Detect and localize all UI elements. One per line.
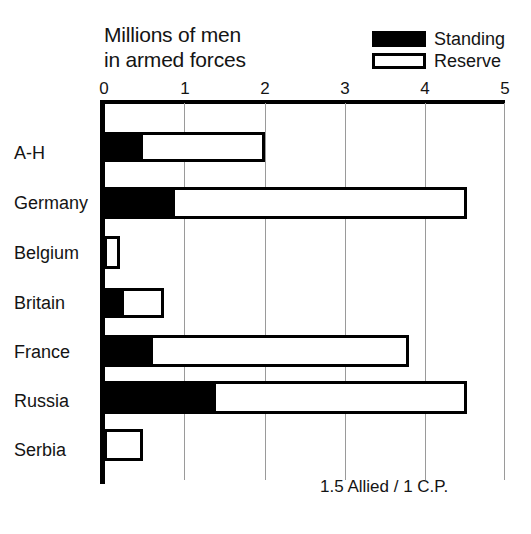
- table-row: [104, 187, 467, 219]
- legend-item-reserve: Reserve: [372, 50, 531, 72]
- chart-footnote: 1.5 Allied / 1 C.P.: [320, 477, 448, 497]
- table-row: [104, 335, 409, 367]
- legend-label-standing: Standing: [434, 29, 505, 49]
- gridline-5: [504, 103, 505, 480]
- bar-standing-belgium: [104, 236, 106, 269]
- table-row: [104, 288, 164, 318]
- bar-total-belgium: [104, 236, 120, 269]
- bar-standing-britain: [104, 288, 124, 318]
- legend-swatch-standing-icon: [372, 31, 426, 47]
- bar-standing-a-h: [104, 132, 143, 162]
- bar-standing-serbia: [104, 429, 106, 461]
- bar-standing-russia: [104, 381, 216, 414]
- legend-swatch-reserve-icon: [372, 53, 426, 69]
- xtick-label-1: 1: [180, 80, 189, 98]
- chart-title: Millions of men in armed forces: [104, 22, 246, 72]
- cat-label-russia: Russia: [0, 391, 92, 411]
- bar-chart: Millions of men in armed forces Standing…: [0, 0, 531, 534]
- legend-label-reserve: Reserve: [434, 51, 501, 71]
- xtick-label-2: 2: [260, 80, 269, 98]
- xtick-label-4: 4: [420, 80, 429, 98]
- table-row: [104, 381, 467, 414]
- cat-label-a-h: A-H: [0, 143, 92, 163]
- table-row: [104, 429, 143, 461]
- gridline-2: [265, 103, 266, 480]
- cat-label-germany: Germany: [0, 193, 92, 213]
- cat-label-france: France: [0, 342, 92, 362]
- cat-label-belgium: Belgium: [0, 243, 92, 263]
- chart-legend: Standing Reserve: [372, 28, 531, 72]
- xtick-label-0: 0: [99, 80, 108, 98]
- bar-total-serbia: [104, 429, 143, 461]
- plot-area: [104, 103, 505, 480]
- bar-standing-germany: [104, 187, 175, 219]
- cat-label-britain: Britain: [0, 293, 92, 313]
- gridline-4: [425, 103, 426, 480]
- table-row: [104, 236, 120, 269]
- gridline-3: [345, 103, 346, 480]
- legend-item-standing: Standing: [372, 28, 531, 50]
- table-row: [104, 132, 265, 162]
- cat-label-serbia: Serbia: [0, 440, 92, 460]
- xtick-label-5: 5: [500, 80, 509, 98]
- bar-standing-france: [104, 335, 153, 367]
- xtick-label-3: 3: [340, 80, 349, 98]
